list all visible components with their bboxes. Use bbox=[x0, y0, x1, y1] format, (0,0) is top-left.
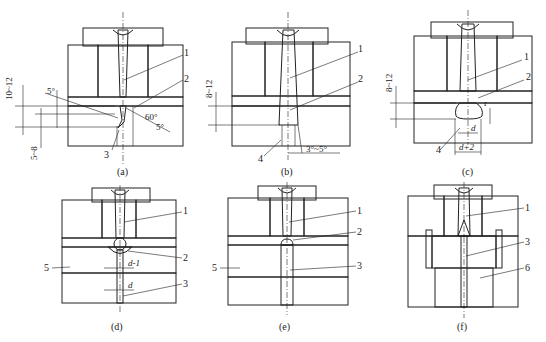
callout-3: 3 bbox=[525, 236, 530, 247]
callout-2: 2 bbox=[358, 73, 363, 84]
caption-d: (d) bbox=[111, 321, 123, 333]
callout-1: 1 bbox=[525, 202, 530, 213]
angle-5deg-right: 5° bbox=[156, 122, 165, 132]
dim-d-minus-1: d-1 bbox=[128, 258, 140, 268]
callout-1: 1 bbox=[184, 47, 189, 58]
panel-d: d-1 d 1 2 3 5 (d) bbox=[44, 185, 188, 333]
panel-e: 1 2 3 5 (e) bbox=[212, 182, 362, 333]
panel-f: 1 3 6 (f) bbox=[408, 182, 530, 333]
callout-1: 1 bbox=[524, 51, 529, 62]
callout-6: 6 bbox=[525, 262, 530, 273]
caption-a: (a) bbox=[117, 166, 128, 178]
callout-5: 5 bbox=[44, 262, 49, 273]
dim-d-plus-2: d+2 bbox=[459, 142, 475, 152]
callout-5: 5 bbox=[212, 262, 217, 273]
panel-a: 10~12 5~8 5° 60° 5° 1 2 3 (a) bbox=[4, 12, 189, 178]
callout-4: 4 bbox=[436, 144, 441, 155]
angle-5deg-left: 5° bbox=[47, 86, 56, 96]
callout-3: 3 bbox=[357, 260, 362, 271]
callout-2: 2 bbox=[357, 226, 362, 237]
dim-r: r bbox=[484, 98, 487, 108]
callout-3: 3 bbox=[104, 149, 109, 160]
dim-10-12: 10~12 bbox=[4, 77, 14, 100]
callout-1: 1 bbox=[183, 205, 188, 216]
angle-3-5deg: 3°~5° bbox=[306, 144, 327, 154]
caption-c: (c) bbox=[462, 166, 473, 178]
panel-c: 8~12 r d d+2 1 2 4 (c) bbox=[384, 10, 532, 178]
dim-d: d bbox=[471, 123, 476, 133]
callout-2: 2 bbox=[526, 71, 531, 82]
dim-8-12: 8~12 bbox=[204, 80, 214, 98]
callout-3: 3 bbox=[183, 278, 188, 289]
callout-1: 1 bbox=[358, 43, 363, 54]
callout-2: 2 bbox=[184, 73, 189, 84]
callout-4: 4 bbox=[258, 153, 263, 164]
callout-2: 2 bbox=[183, 252, 188, 263]
callout-1: 1 bbox=[357, 205, 362, 216]
angle-60deg: 60° bbox=[145, 112, 158, 122]
caption-e: (e) bbox=[279, 321, 290, 333]
dim-d: d bbox=[128, 280, 133, 290]
dim-5-8: 5~8 bbox=[29, 146, 39, 160]
panel-b: 8~12 3°~5° 1 2 4 (b) bbox=[204, 12, 363, 178]
dim-8-12: 8~12 bbox=[384, 74, 394, 92]
caption-f: (f) bbox=[457, 321, 467, 333]
caption-b: (b) bbox=[281, 166, 293, 178]
mold-gate-diagram-figure: 10~12 5~8 5° 60° 5° 1 2 3 (a) 8~12 3°~5°… bbox=[0, 0, 546, 342]
